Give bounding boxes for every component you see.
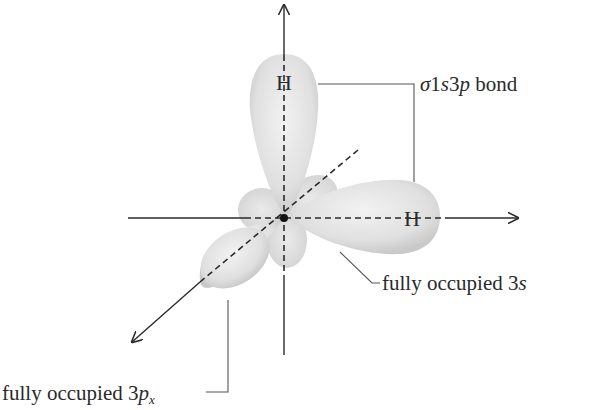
px-orbital-label: fully occupied 3px xyxy=(2,381,155,407)
bond-label: σ1s3p bond xyxy=(420,72,518,96)
s-leader xyxy=(340,252,380,283)
top-h-label: H xyxy=(276,70,292,95)
px-leader xyxy=(206,300,228,392)
right-h-label: H xyxy=(404,206,420,231)
bond-bracket xyxy=(318,84,414,182)
nucleus-dot xyxy=(280,214,288,222)
s-orbital-label: fully occupied 3s xyxy=(382,271,527,295)
orbital-diagram: H H σ1s3p bond fully occupied 3s fully o… xyxy=(0,0,597,410)
